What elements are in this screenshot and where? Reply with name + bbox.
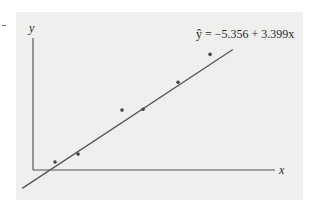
data-point-2: [76, 152, 80, 156]
data-point-6: [208, 53, 212, 57]
data-point-3: [120, 108, 124, 112]
data-points: [53, 53, 212, 164]
data-point-4: [141, 107, 145, 111]
regression-line: [22, 49, 233, 188]
axes: [33, 38, 275, 170]
x-axis-label: x: [278, 163, 285, 177]
regression-equation: ŷ = −5.356 + 3.399x: [196, 27, 294, 41]
scatter-chart: y x ŷ = −5.356 + 3.399x: [0, 0, 316, 208]
data-point-1: [53, 160, 57, 164]
y-axis-label: y: [28, 21, 35, 35]
data-point-5: [176, 80, 180, 84]
